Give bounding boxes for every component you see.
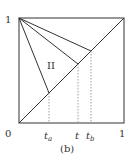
diagonal-line [19,18,124,123]
caption: (b) [60,143,74,154]
x-end-label: 1 [119,128,125,139]
tick-tb: tb [86,130,95,143]
origin-label: 0 [5,128,11,139]
region-label: II [47,60,55,71]
y-end-label: 1 [5,14,11,25]
tick-t: t [75,130,80,141]
tick-ta: ta [44,130,52,143]
diagram: 1 0 1 II ta t tb (b) [0,0,131,163]
